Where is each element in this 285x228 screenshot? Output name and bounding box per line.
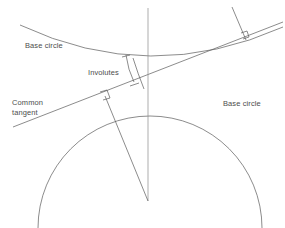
label-base-circle-upper: Base circle: [25, 41, 63, 51]
upper-radius-to-tangent-point: [232, 7, 246, 40]
label-base-circle-lower: Base circle: [223, 99, 261, 109]
involute-diagram: Base circle Involutes Common tangent Bas…: [0, 0, 285, 228]
involute-tick-lower: [130, 83, 139, 86]
label-common-tangent: Common tangent: [12, 98, 43, 117]
involute-curve-left: [126, 55, 134, 82]
lower-radius-to-tangent-point: [105, 96, 148, 201]
lower-base-circle-arc: [38, 116, 262, 228]
label-involutes: Involutes: [88, 68, 119, 78]
